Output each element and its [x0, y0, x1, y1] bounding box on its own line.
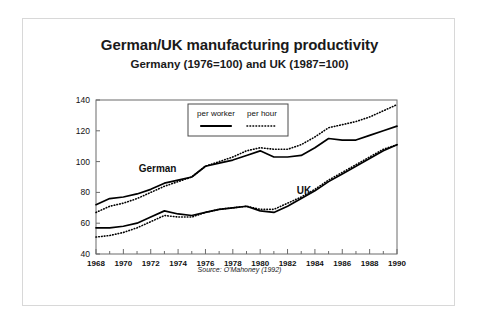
y-axis-tick-label: 140	[76, 95, 90, 105]
series-annotations: GermanUK	[139, 163, 312, 196]
y-axis-tick-label: 100	[76, 157, 90, 167]
chart-svg: 406080100120140 196819701972197419761978…	[0, 0, 479, 327]
source-caption: Source: O'Mahoney (1992)	[0, 266, 479, 273]
y-axis-tick-label: 80	[81, 187, 91, 197]
legend-entry-label: per hour	[247, 109, 277, 118]
chart-legend: per workerper hour	[188, 104, 288, 136]
y-axis-tick-labels: 406080100120140	[76, 95, 90, 259]
x-axis-ticks	[96, 249, 397, 254]
series-line	[96, 145, 397, 228]
chart-page: German/UK manufacturing productivity Ger…	[0, 0, 479, 327]
series-annotation-label: German	[139, 163, 177, 174]
y-axis-tick-label: 40	[81, 249, 91, 259]
legend-entry-label: per worker	[197, 109, 235, 118]
line-chart: 406080100120140 196819701972197419761978…	[0, 0, 479, 327]
series-line	[96, 145, 397, 237]
y-axis-ticks	[96, 100, 100, 254]
series-annotation-label: UK	[297, 185, 312, 196]
y-axis-tick-label: 60	[81, 218, 91, 228]
y-axis-tick-label: 120	[76, 126, 90, 136]
